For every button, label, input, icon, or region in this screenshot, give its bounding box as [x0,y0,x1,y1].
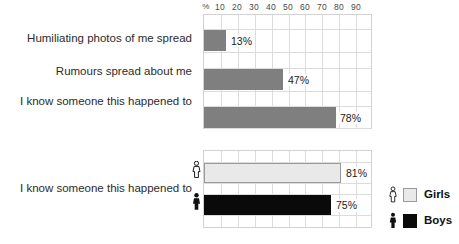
axis-tick-10: 10 [215,2,225,12]
bar-value-rumours-spread: 47% [285,73,311,86]
axis-tick-50: 50 [283,2,293,12]
axis-tick-60: 60 [300,2,310,12]
legend-swatch-boys [403,214,417,228]
legend-item-boys: Boys [388,209,459,235]
legend-item-girls: Girls [388,183,459,209]
axis-tick-80: 80 [334,2,344,12]
category-label-humiliating-photos: Humiliating photos of me spread [0,33,192,45]
male-figure-icon [191,193,202,210]
bar-girls-know-someone [204,163,341,183]
legend-label-girls: Girls [424,187,450,201]
male-figure-icon [388,212,398,229]
axis-tick-70: 70 [317,2,327,12]
bar-humiliating-photos [204,30,226,51]
axis-tick-90: 90 [351,2,361,12]
female-figure-icon [388,186,398,203]
legend-swatch-girls [403,188,417,202]
axis-tick-20: 20 [232,2,242,12]
bar-value-humiliating-photos: 13% [228,34,254,47]
legend: Girls Boys [388,183,459,235]
female-figure-icon [191,161,202,178]
axis-tick-40: 40 [266,2,276,12]
bar-value-girls: 81% [343,167,369,180]
chart-panel-overall: 13% 47% 78% [203,14,372,129]
bar-rumours-spread [204,69,283,90]
bar-value-know-someone-overall: 78% [337,111,363,124]
axis-unit-label: % [202,2,209,11]
legend-label-boys: Boys [424,213,452,227]
x-axis: % 10 20 30 40 50 60 70 80 90 [195,2,375,14]
category-label-know-someone-by-gender: I know someone this happened to [0,183,192,195]
chart-panel-by-gender: 81% 75% [203,150,372,228]
category-label-know-someone-overall: I know someone this happened to [0,96,192,108]
bar-boys-know-someone [204,195,331,215]
bar-value-boys: 75% [333,199,359,212]
bar-know-someone-overall [204,107,336,128]
axis-tick-30: 30 [249,2,259,12]
category-label-rumours-spread: Rumours spread about me [0,66,192,78]
